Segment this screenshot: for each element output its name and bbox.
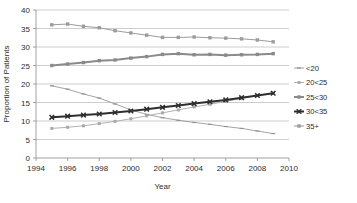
data-point-marker — [271, 52, 274, 55]
data-point-marker — [224, 53, 227, 56]
chart-canvas: 0510152025303540 19941996199820002002200… — [0, 0, 357, 203]
data-point-marker — [98, 59, 101, 62]
data-point-marker — [208, 36, 211, 39]
y-tick-label: 15 — [21, 99, 30, 108]
legend-item-25_30[interactable]: 25<30 — [294, 93, 327, 102]
legend-item-35_[interactable]: 35+ — [294, 122, 319, 131]
series-25_30 — [50, 52, 275, 67]
x-axis-title: Year — [154, 182, 171, 191]
y-axis-title: Proportion of Patients — [2, 46, 11, 123]
legend-item-30_35[interactable]: 30<35 — [294, 107, 327, 116]
x-tick-label: 2008 — [248, 164, 266, 173]
legend-label: 30<35 — [306, 107, 327, 116]
x-tick-label: 1998 — [90, 164, 108, 173]
data-point-marker — [98, 26, 101, 29]
data-point-marker — [161, 111, 164, 114]
data-point-marker — [177, 52, 180, 55]
data-point-marker — [208, 53, 211, 56]
series-line — [52, 86, 273, 134]
legend-label: 35+ — [306, 122, 319, 131]
data-point-marker — [145, 114, 148, 117]
data-point-marker — [82, 124, 85, 127]
data-point-marker — [145, 33, 148, 36]
y-tick-label: 35 — [21, 25, 30, 34]
x-tick-label: 2004 — [185, 164, 203, 173]
data-point-marker — [240, 37, 243, 40]
x-tick-label: 1996 — [59, 164, 77, 173]
x-axis: 199419961998200020022004200620082010 — [27, 158, 298, 173]
data-point-marker — [129, 56, 132, 59]
x-tick-label: 1994 — [27, 164, 45, 173]
y-tick-label: 30 — [21, 43, 30, 52]
y-tick-label: 5 — [26, 136, 31, 145]
data-point-marker — [271, 40, 274, 43]
data-point-marker — [82, 61, 85, 64]
data-point-marker — [66, 22, 69, 25]
line-chart: 0510152025303540 19941996199820002002200… — [0, 0, 357, 203]
data-point-marker — [66, 62, 69, 65]
x-tick-label: 2006 — [217, 164, 235, 173]
data-point-marker — [98, 122, 101, 125]
data-point-marker — [161, 36, 164, 39]
data-point-marker — [129, 117, 132, 120]
data-point-marker — [161, 53, 164, 56]
data-point-marker — [256, 53, 259, 56]
legend-label: 25<30 — [306, 93, 327, 102]
data-point-marker — [192, 35, 195, 38]
data-point-marker — [297, 124, 300, 127]
legend-item-_20[interactable]: <20 — [294, 64, 319, 73]
data-point-marker — [82, 25, 85, 28]
data-point-marker — [297, 95, 300, 98]
y-tick-label: 40 — [21, 6, 30, 15]
data-point-marker — [240, 53, 243, 56]
x-tick-label: 2010 — [280, 164, 298, 173]
data-point-marker — [298, 81, 301, 84]
gridlines — [36, 10, 289, 140]
legend: <2020<2525<3030<3535+ — [294, 64, 327, 131]
data-point-marker — [50, 23, 53, 26]
y-tick-label: 25 — [21, 62, 30, 71]
data-point-marker — [113, 58, 116, 61]
legend-label: 20<25 — [306, 78, 327, 87]
y-tick-label: 10 — [21, 117, 30, 126]
data-point-marker — [66, 126, 69, 129]
y-tick-label: 20 — [21, 80, 30, 89]
y-tick-label: 0 — [26, 154, 31, 163]
data-point-marker — [50, 64, 53, 67]
data-point-marker — [177, 36, 180, 39]
y-axis: 0510152025303540 — [21, 6, 36, 163]
series-30_35 — [50, 91, 276, 120]
data-point-marker — [177, 108, 180, 111]
data-point-marker — [256, 38, 259, 41]
series-35_ — [50, 22, 275, 43]
data-point-marker — [114, 120, 117, 123]
data-point-marker — [113, 29, 116, 32]
x-tick-label: 2002 — [154, 164, 172, 173]
data-point-marker — [224, 36, 227, 39]
data-point-marker — [145, 55, 148, 58]
data-point-marker — [192, 53, 195, 56]
legend-label: <20 — [306, 64, 319, 73]
plot-series — [50, 22, 276, 133]
data-point-marker — [193, 105, 196, 108]
data-point-marker — [129, 31, 132, 34]
x-tick-label: 2000 — [122, 164, 140, 173]
legend-item-20_25[interactable]: 20<25 — [294, 78, 327, 87]
data-point-marker — [50, 127, 53, 130]
